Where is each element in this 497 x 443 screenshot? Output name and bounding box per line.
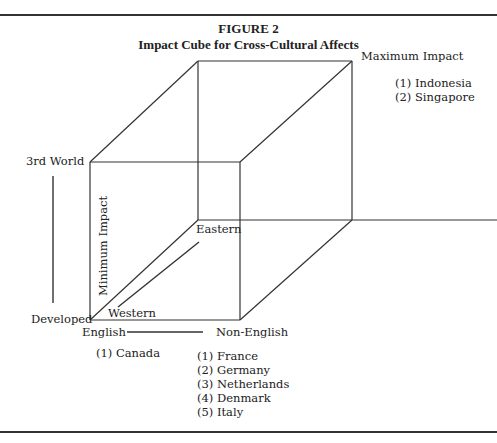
maximum-impact-label: Maximum Impact <box>361 50 463 63</box>
country-item: (2) Germany <box>197 363 289 377</box>
maximum-impact-countries: (1) Indonesia (2) Singapore <box>395 76 475 104</box>
country-item: (1) Canada <box>96 346 160 360</box>
third-world-label: 3rd World <box>26 155 84 168</box>
country-item: (3) Netherlands <box>197 377 289 391</box>
country-item: (1) France <box>197 349 289 363</box>
non-english-countries: (1) France (2) Germany (3) Netherlands (… <box>197 349 289 419</box>
country-item: (2) Singapore <box>395 90 475 104</box>
non-english-label: Non-English <box>216 326 288 339</box>
country-item: (4) Denmark <box>197 391 289 405</box>
minimum-impact-label: Minimum Impact <box>97 196 110 296</box>
country-item: (5) Italy <box>197 405 289 419</box>
western-label: Western <box>108 307 156 320</box>
country-item: (1) Indonesia <box>395 76 475 90</box>
eastern-label: Eastern <box>196 223 241 236</box>
english-countries: (1) Canada <box>96 346 160 360</box>
english-label: English <box>82 326 126 339</box>
